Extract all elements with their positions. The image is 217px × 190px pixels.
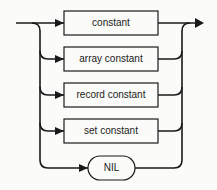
label-constant: constant [64, 17, 158, 29]
label-nil: NIL [88, 162, 135, 174]
arrow-icon [55, 91, 64, 99]
arrow-icon [55, 127, 64, 135]
label-set-constant: set constant [64, 125, 158, 137]
arrow-icon [79, 164, 88, 172]
label-record-constant: record constant [64, 89, 158, 101]
label-array-constant: array constant [64, 53, 158, 65]
arrow-icon [55, 19, 64, 27]
exit-arrow-icon [195, 18, 204, 28]
arrow-icon [55, 55, 64, 63]
